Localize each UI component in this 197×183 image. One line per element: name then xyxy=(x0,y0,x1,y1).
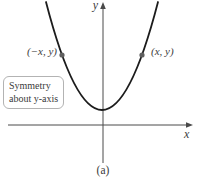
point-right-label: (x, y) xyxy=(151,45,174,57)
point-left-label: (−x, y) xyxy=(16,45,57,57)
parabola-symmetry-figure: y x (−x, y) (x, y) Symmetry about y-axis… xyxy=(0,0,197,183)
symmetry-callout-line1: Symmetry xyxy=(9,79,61,92)
y-axis-label: y xyxy=(84,0,98,13)
symmetry-callout: Symmetry about y-axis xyxy=(3,76,64,109)
symmetry-callout-line2: about y-axis xyxy=(9,92,61,105)
subfigure-caption: (a) xyxy=(88,164,118,176)
x-axis-label: x xyxy=(184,127,189,142)
y-axis-arrowhead xyxy=(100,2,106,9)
point-left-marker xyxy=(59,52,64,57)
point-right-marker xyxy=(139,52,144,57)
